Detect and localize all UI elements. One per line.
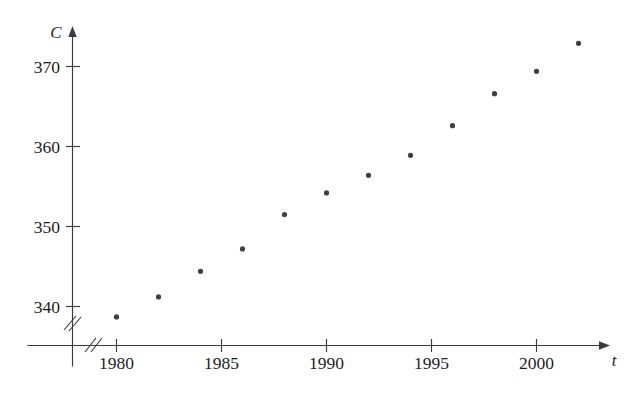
data-point [408, 153, 413, 158]
data-point [198, 269, 203, 274]
x-tick-label-1985: 1985 [204, 353, 239, 373]
y-axis-arrow-icon [68, 26, 76, 37]
data-point [282, 212, 287, 217]
data-point [114, 314, 119, 319]
y-tick-label-360: 360 [34, 137, 61, 157]
x-axis-label: t [612, 351, 618, 370]
data-point [492, 91, 497, 96]
y-tick-label-340: 340 [34, 297, 61, 317]
y-tick-label-350: 350 [34, 217, 61, 237]
y-axis [68, 26, 76, 366]
x-axis [28, 341, 610, 349]
y-axis-tick-labels: 340 350 360 370 [34, 57, 61, 317]
y-axis-break-slash-2-icon [69, 317, 81, 331]
y-axis-label: C [50, 23, 62, 42]
data-points-group [114, 41, 581, 320]
x-tick-label-1990: 1990 [309, 353, 344, 373]
data-point [366, 173, 371, 178]
x-axis-arrow-icon [599, 341, 610, 349]
chart-figure: 340 350 360 370 1980 1985 1990 1995 2000… [0, 0, 629, 397]
scatter-plot-svg: 340 350 360 370 1980 1985 1990 1995 2000… [0, 0, 629, 397]
data-point [450, 123, 455, 128]
x-tick-label-1980: 1980 [99, 353, 134, 373]
data-point [324, 190, 329, 195]
axis-break-marks [64, 316, 102, 352]
y-tick-label-370: 370 [34, 57, 61, 77]
data-point [534, 69, 539, 74]
x-tick-label-1995: 1995 [414, 353, 449, 373]
x-tick-label-2000: 2000 [519, 353, 554, 373]
data-point [576, 41, 581, 46]
data-point [240, 246, 245, 251]
x-axis-tick-labels: 1980 1985 1990 1995 2000 [99, 353, 554, 373]
data-point [156, 294, 161, 299]
y-axis-break-slash-1-icon [64, 316, 76, 330]
